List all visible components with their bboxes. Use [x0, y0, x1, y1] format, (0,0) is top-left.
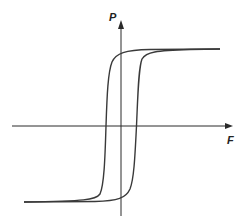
p-axis-label: P: [109, 11, 117, 23]
p-axis-arrow-icon: [118, 20, 124, 29]
hysteresis-diagram: P F: [0, 0, 245, 221]
f-axis-arrow-icon: [225, 123, 233, 129]
f-axis-label: F: [227, 134, 234, 146]
